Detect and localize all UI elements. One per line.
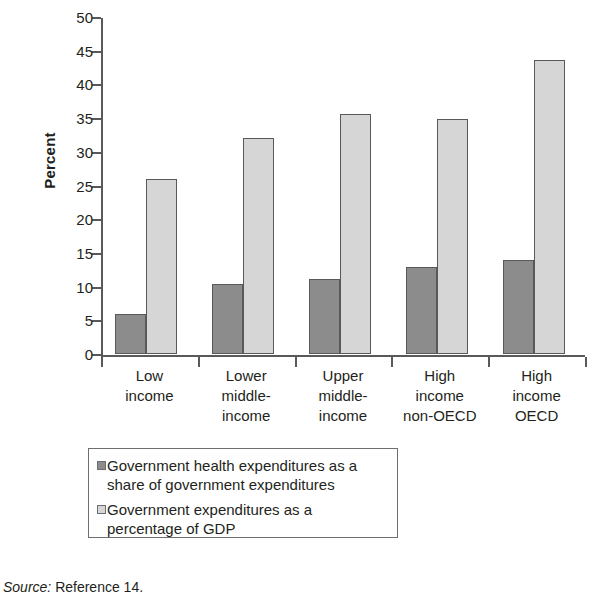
legend-swatch-icon <box>97 505 106 514</box>
bar <box>243 138 274 354</box>
x-axis-category-label-line: non-OECD <box>391 406 488 426</box>
x-axis-category-labels: LowincomeLowermiddle-incomeUppermiddle-i… <box>101 366 585 436</box>
bar <box>406 267 437 354</box>
y-axis-tick <box>92 186 101 188</box>
source-label: Source: <box>3 579 51 595</box>
y-axis-tick-label: 40 <box>59 77 93 92</box>
bar-chart-figure: Percent 50454035302520151050 LowincomeLo… <box>0 0 602 614</box>
bar <box>437 119 468 354</box>
x-axis-tick <box>585 357 587 367</box>
x-axis-category-label-line: Low <box>101 366 198 386</box>
x-axis-category-label-line: income <box>198 406 295 426</box>
y-axis-tick <box>92 118 101 120</box>
source-text: Reference 14. <box>51 579 143 595</box>
x-axis-category-label: Highincomenon-OECD <box>391 366 488 426</box>
bar <box>146 179 177 354</box>
chart-legend: Government health expenditures as ashare… <box>88 448 398 538</box>
y-axis-tick <box>92 219 101 221</box>
bar <box>503 260 534 354</box>
y-axis-tick-label: 15 <box>59 246 93 261</box>
legend-label-line: Government expenditures as a <box>107 500 312 519</box>
y-axis-tick-label: 5 <box>59 313 93 328</box>
legend-label-line: percentage of GDP <box>107 519 312 538</box>
x-axis-category-label-line: High <box>488 366 585 386</box>
y-axis-tick-label: 25 <box>59 179 93 194</box>
x-axis-category-label-line: income <box>391 386 488 406</box>
bar <box>115 314 146 354</box>
legend-label: Government expenditures as apercentage o… <box>107 500 312 538</box>
y-axis-tick <box>92 51 101 53</box>
bar <box>340 114 371 354</box>
legend-item: Government health expenditures as ashare… <box>97 456 389 494</box>
y-axis-tick <box>92 84 101 86</box>
bar <box>309 279 340 354</box>
y-axis-tick-label: 45 <box>59 44 93 59</box>
x-axis-category-label: Uppermiddle-income <box>295 366 392 426</box>
x-axis-category-label: Lowermiddle-income <box>198 366 295 426</box>
plot-area <box>101 18 585 355</box>
y-axis-tick <box>92 253 101 255</box>
x-axis-category-label: Lowincome <box>101 366 198 406</box>
y-axis-tick <box>92 152 101 154</box>
y-axis-tick-label: 50 <box>59 10 93 25</box>
y-axis-tick-label: 30 <box>59 145 93 160</box>
legend-label-line: share of government expenditures <box>107 475 357 494</box>
y-axis-tick-label: 20 <box>59 212 93 227</box>
y-axis-tick <box>92 354 101 356</box>
x-axis-category-label-line: middle- <box>198 386 295 406</box>
source-note: Source: Reference 14. <box>3 578 143 596</box>
y-axis-tick-label: 10 <box>59 280 93 295</box>
x-axis-category-label-line: Lower <box>198 366 295 386</box>
y-axis-tick <box>92 287 101 289</box>
x-axis-category-label-line: Upper <box>295 366 392 386</box>
y-axis-tick-label: 35 <box>59 111 93 126</box>
y-axis-tick <box>92 17 101 19</box>
y-axis-tick-labels: 50454035302520151050 <box>53 18 93 356</box>
x-axis-category-label-line: income <box>101 386 198 406</box>
x-axis-category-label-line: income <box>488 386 585 406</box>
legend-swatch-icon <box>97 461 106 470</box>
legend-item: Government expenditures as apercentage o… <box>97 500 389 538</box>
bar <box>534 60 565 354</box>
legend-label: Government health expenditures as ashare… <box>107 456 357 494</box>
y-axis-line <box>101 18 103 356</box>
x-axis-category-label-line: OECD <box>488 406 585 426</box>
x-axis-category-label-line: High <box>391 366 488 386</box>
x-axis-category-label: HighincomeOECD <box>488 366 585 426</box>
bar <box>212 284 243 354</box>
y-axis-tick-label: 0 <box>59 347 93 362</box>
y-axis-tick <box>92 320 101 322</box>
x-axis-category-label-line: middle- <box>295 386 392 406</box>
x-axis-category-label-line: income <box>295 406 392 426</box>
legend-label-line: Government health expenditures as a <box>107 456 357 475</box>
x-axis-line <box>101 355 585 357</box>
